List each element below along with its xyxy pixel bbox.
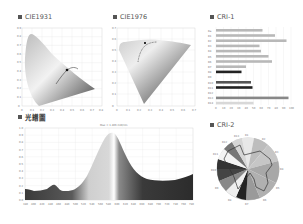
svg-text:50: 50 xyxy=(252,107,256,110)
svg-text:600: 600 xyxy=(115,203,120,206)
svg-text:R5: R5 xyxy=(276,187,280,190)
svg-text:R13: R13 xyxy=(208,97,213,100)
svg-text:R3: R3 xyxy=(275,151,279,154)
header-square-icon xyxy=(18,115,22,119)
svg-text:0.6: 0.6 xyxy=(80,109,84,112)
svg-text:R11: R11 xyxy=(208,87,213,90)
svg-text:R13: R13 xyxy=(234,135,239,138)
svg-text:0.5: 0.5 xyxy=(19,163,23,166)
svg-text:0.7: 0.7 xyxy=(112,27,116,30)
cie1931-header: CIE1931 xyxy=(18,13,52,21)
svg-text:100: 100 xyxy=(289,107,294,110)
svg-text:0.4: 0.4 xyxy=(60,109,64,112)
svg-text:440: 440 xyxy=(48,203,53,206)
svg-text:0.7: 0.7 xyxy=(192,109,196,112)
svg-text:R9: R9 xyxy=(215,187,219,190)
svg-text:460: 460 xyxy=(56,203,61,206)
svg-text:R11: R11 xyxy=(213,153,218,156)
svg-text:540: 540 xyxy=(90,203,95,206)
svg-text:700: 700 xyxy=(156,203,161,206)
svg-text:R2: R2 xyxy=(262,138,266,141)
svg-text:1.0: 1.0 xyxy=(19,127,23,130)
svg-text:R4: R4 xyxy=(280,168,284,171)
svg-text:R4: R4 xyxy=(208,50,212,53)
svg-text:0.0: 0.0 xyxy=(19,199,23,202)
svg-text:R14: R14 xyxy=(208,102,213,105)
svg-text:0.4: 0.4 xyxy=(19,170,23,173)
svg-text:0.7: 0.7 xyxy=(90,109,94,112)
svg-text:R8: R8 xyxy=(228,199,232,202)
spectrum-header: 光譜圖 xyxy=(18,112,46,122)
svg-text:380: 380 xyxy=(23,203,28,206)
svg-text:0.5: 0.5 xyxy=(170,109,174,112)
svg-text:0.9: 0.9 xyxy=(17,27,21,30)
svg-text:10: 10 xyxy=(222,107,226,110)
svg-text:0.6: 0.6 xyxy=(19,156,23,159)
svg-text:560: 560 xyxy=(98,203,103,206)
svg-text:0.3: 0.3 xyxy=(17,79,21,82)
svg-text:R2: R2 xyxy=(208,40,212,43)
svg-text:R7: R7 xyxy=(245,203,249,206)
svg-text:640: 640 xyxy=(131,203,136,206)
svg-text:0.7: 0.7 xyxy=(17,44,21,47)
cri2-header: CRI-2 xyxy=(210,121,234,129)
svg-text:R3: R3 xyxy=(208,45,212,48)
svg-text:0.9: 0.9 xyxy=(19,134,23,137)
svg-text:0: 0 xyxy=(18,105,20,108)
svg-text:20: 20 xyxy=(230,107,234,110)
cie1976-chart: 00.10.20.30.40.50.60.7 00.10.20.30.40.50… xyxy=(117,28,195,106)
svg-text:Ra: Ra xyxy=(208,30,212,33)
svg-text:R1: R1 xyxy=(245,134,249,137)
svg-text:660: 660 xyxy=(140,203,145,206)
svg-text:420: 420 xyxy=(40,203,45,206)
svg-text:0.3: 0.3 xyxy=(19,177,23,180)
svg-text:0.4: 0.4 xyxy=(159,109,163,112)
svg-text:0.2: 0.2 xyxy=(112,82,116,85)
svg-text:R12: R12 xyxy=(208,92,213,95)
svg-text:580: 580 xyxy=(106,203,111,206)
cri1-chart: RaR1R2R3R4R5R6R7R8R9R10R11R12R13R14 0102… xyxy=(208,27,298,107)
header-square-icon xyxy=(113,15,117,19)
svg-text:40: 40 xyxy=(245,107,249,110)
svg-text:0.4: 0.4 xyxy=(17,70,21,73)
svg-text:480: 480 xyxy=(65,203,70,206)
svg-text:0.8: 0.8 xyxy=(99,109,103,112)
spectrum-chart: Max = 1.406 mW/nm 0.00.10.20.30.40.50.60… xyxy=(25,128,193,200)
cri2-title: CRI-2 xyxy=(217,121,234,129)
svg-text:0.1: 0.1 xyxy=(112,93,116,96)
svg-text:R10: R10 xyxy=(208,82,213,85)
svg-text:0.6: 0.6 xyxy=(17,53,21,56)
svg-text:740: 740 xyxy=(173,203,178,206)
svg-text:80: 80 xyxy=(275,107,279,110)
svg-text:0.3: 0.3 xyxy=(50,109,54,112)
svg-text:0.2: 0.2 xyxy=(17,87,21,90)
svg-text:0.5: 0.5 xyxy=(70,109,74,112)
svg-text:0.1: 0.1 xyxy=(126,109,130,112)
svg-text:0.5: 0.5 xyxy=(112,49,116,52)
svg-text:R6: R6 xyxy=(263,199,267,202)
cie1931-chart: 00.10.20.30.40.50.60.70.80.9 00.10.20.30… xyxy=(22,28,102,106)
svg-text:0: 0 xyxy=(116,109,118,112)
svg-text:760: 760 xyxy=(181,203,186,206)
svg-text:R9: R9 xyxy=(208,76,212,79)
svg-text:60: 60 xyxy=(260,107,264,110)
cie1976-header: CIE1976 xyxy=(113,13,147,21)
svg-text:0: 0 xyxy=(112,105,114,108)
svg-text:R5: R5 xyxy=(208,56,212,59)
svg-text:R6: R6 xyxy=(208,61,212,64)
svg-text:30: 30 xyxy=(237,107,241,110)
svg-text:90: 90 xyxy=(282,107,286,110)
svg-text:0.1: 0.1 xyxy=(19,192,23,195)
header-square-icon xyxy=(210,123,214,127)
svg-text:0.8: 0.8 xyxy=(19,141,23,144)
cie1976-title: CIE1976 xyxy=(120,13,147,21)
svg-text:0.3: 0.3 xyxy=(112,71,116,74)
cri2-chart: R1R2R3R4R5R6R7R8R9R10R11R12R13 xyxy=(213,134,283,204)
svg-text:780: 780 xyxy=(189,203,194,206)
header-square-icon xyxy=(18,15,22,19)
svg-text:0.1: 0.1 xyxy=(17,96,21,99)
cri1-title: CRI-1 xyxy=(217,13,234,21)
svg-text:R7: R7 xyxy=(208,66,212,69)
svg-text:400: 400 xyxy=(31,203,36,206)
svg-text:0.3: 0.3 xyxy=(148,109,152,112)
